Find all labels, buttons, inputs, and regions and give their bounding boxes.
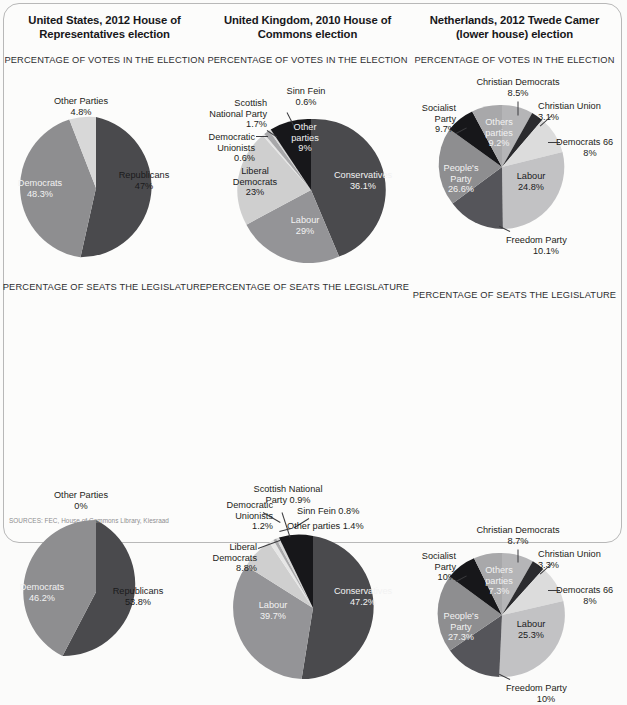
uk-title-text: United Kingdom, 2010 House of Commons el… <box>203 14 412 41</box>
uk-seats-label-libdems: LiberalDemocrats8.8% <box>181 542 257 574</box>
us-seats-subtitle-text: PERCENTAGE OF SEATS THE LEGISLATURE <box>0 282 209 293</box>
uk-votes-subtitle-text: PERCENTAGE OF VOTES IN THE ELECTION <box>203 55 412 66</box>
uk-seats-label-sinnfein: Sinn Fein 0.8% <box>297 506 389 517</box>
uk-votes-subtitle: PERCENTAGE OF VOTES IN THE ELECTION <box>203 55 412 66</box>
uk-seats-label-other: Other parties 1.4% <box>287 521 409 532</box>
nl-seats-label-labour: Labour25.3% <box>502 619 560 640</box>
nl-title-text: Netherlands, 2012 Twede Camer (lower hou… <box>410 14 619 41</box>
us-votes-pie-chart: Other Parties4.8% Democrats48.3% Republi… <box>0 100 209 270</box>
column-united-kingdom: United Kingdom, 2010 House of Commons el… <box>203 0 412 529</box>
uk-chart-title: United Kingdom, 2010 House of Commons el… <box>203 14 412 41</box>
nl-votes-label-christian-union: Christian Union3.1% <box>538 101 627 122</box>
us-seats-subtitle: PERCENTAGE OF SEATS THE LEGISLATURE <box>0 282 209 293</box>
nl-seats-label-others: Othersparties7.3% <box>472 565 526 597</box>
uk-seats-subtitle: PERCENTAGE OF SEATS THE LEGISLATURE <box>203 282 412 293</box>
us-chart-title: United States, 2012 House of Representat… <box>0 14 209 41</box>
nl-seats-label-socialist: SocialistParty10% <box>394 551 456 583</box>
nl-votes-label-christian-democrats: Christian Democrats8.5% <box>458 77 578 98</box>
uk-votes-label-libdems: LiberalDemocrats23% <box>223 166 287 198</box>
uk-seats-label-labour: Labour39.7% <box>243 600 303 621</box>
nl-votes-label-labour: Labour24.8% <box>502 171 560 192</box>
uk-votes-label-sinnfein: Sinn Fein0.6% <box>275 86 337 107</box>
nl-seats-label-christian-democrats: Christian Democrats8.7% <box>458 525 578 546</box>
uk-votes-label-snp: ScottishNational Party1.7% <box>185 98 267 130</box>
column-netherlands: Netherlands, 2012 Twede Camer (lower hou… <box>410 0 619 529</box>
nl-votes-label-socialist: SocialistParty9.7% <box>394 103 456 135</box>
us-votes-subtitle: PERCENTAGE OF VOTES IN THE ELECTION <box>0 55 209 66</box>
uk-seats-pie-chart: Scottish NationalParty 0.9% Sinn Fein 0.… <box>203 490 412 690</box>
us-seats-label-republicans: Republicans53.8% <box>96 586 180 607</box>
nl-votes-subtitle: PERCENTAGE OF VOTES IN THE ELECTION <box>410 55 619 66</box>
column-united-states: United States, 2012 House of Representat… <box>0 0 209 529</box>
us-seats-label-democrats: Democrats46.2% <box>0 582 86 603</box>
nl-seats-leader-christian-democrats <box>518 550 519 563</box>
uk-seats-subtitle-text: PERCENTAGE OF SEATS THE LEGISLATURE <box>203 282 412 293</box>
nl-seats-label-freedom: Freedom Party10% <box>506 683 602 704</box>
nl-seats-subtitle: PERCENTAGE OF SEATS THE LEGISLATURE <box>410 290 619 301</box>
nl-seats-label-democrats66: Democrats 668% <box>556 585 627 606</box>
nl-votes-pie-chart: Christian Democrats8.5% Christian Union3… <box>410 95 619 280</box>
nl-seats-label-peoples: People'sParty27.3% <box>432 611 490 643</box>
nl-seats-subtitle-text: PERCENTAGE OF SEATS THE LEGISLATURE <box>410 290 619 301</box>
us-votes-subtitle-text: PERCENTAGE OF VOTES IN THE ELECTION <box>0 55 209 66</box>
uk-votes-label-conservatives: Conservatives36.1% <box>319 170 407 191</box>
us-votes-label-republicans: Republicans47% <box>102 170 186 191</box>
us-title-text: United States, 2012 House of Representat… <box>0 14 209 41</box>
nl-votes-leader-christian-democrats <box>518 102 519 116</box>
uk-seats-label-conservatives: Conservatives47.2% <box>319 586 407 607</box>
nl-seats-pie-chart: Christian Democrats8.7% Christian Union3… <box>410 515 619 705</box>
nl-votes-label-others: Othersparties9.2% <box>472 117 526 149</box>
nl-chart-title: Netherlands, 2012 Twede Camer (lower hou… <box>410 14 619 41</box>
uk-seats-label-dup: DemocraticUnionists1.2% <box>187 500 273 532</box>
source-note: SOURCES: FEC, House of Commons Library, … <box>9 517 169 524</box>
nl-seats-leader-democrats66 <box>548 590 560 591</box>
uk-votes-pie-chart: ScottishNational Party1.7% DemocraticUni… <box>203 90 412 270</box>
uk-votes-label-labour: Labour29% <box>277 215 333 236</box>
nl-seats-label-christian-union: Christian Union3.3% <box>538 549 627 570</box>
us-seats-label-other: Other Parties0% <box>26 490 136 511</box>
uk-votes-label-other: Otherparties9% <box>277 122 333 154</box>
nl-votes-label-freedom: Freedom Party10.1% <box>506 235 602 256</box>
us-votes-label-other: Other Parties4.8% <box>26 96 136 117</box>
us-votes-label-democrats: Democrats48.3% <box>0 178 84 199</box>
nl-votes-leader-democrats66 <box>548 142 560 143</box>
uk-votes-label-dup: DemocraticUnionists0.6% <box>177 132 255 164</box>
nl-votes-label-peoples: People'sParty26.6% <box>432 163 490 195</box>
nl-votes-subtitle-text: PERCENTAGE OF VOTES IN THE ELECTION <box>410 55 619 66</box>
uk-votes-leader-dup <box>256 136 268 137</box>
nl-votes-label-democrats66: Democrats 668% <box>556 137 627 158</box>
